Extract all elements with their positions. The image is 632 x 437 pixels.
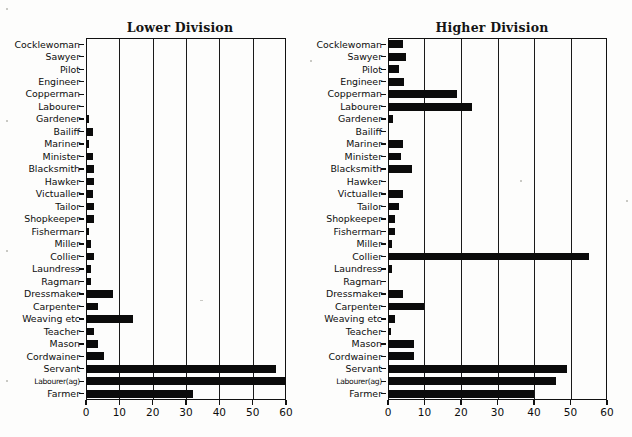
y-axis-tick-label: Cordwainer <box>2 350 84 362</box>
y-axis-tick-label: Labourer(ag) <box>318 375 386 387</box>
y-axis-tick-mark <box>381 168 386 169</box>
bar-row <box>86 200 286 212</box>
y-axis-tick-mark <box>79 94 84 95</box>
y-axis-tick-label: Blacksmith <box>318 163 386 175</box>
y-axis-tick-label: Bailiff <box>2 125 84 137</box>
bar <box>86 352 104 360</box>
bar <box>388 253 589 261</box>
bar-row <box>86 238 286 250</box>
y-axis-tick-mark <box>381 69 386 70</box>
y-axis-tick-label: Weaving etc <box>2 313 84 325</box>
y-axis-tick-mark <box>79 143 84 144</box>
bar <box>86 253 94 261</box>
bar-row <box>388 263 607 275</box>
x-axis-tick-mark <box>152 400 153 405</box>
y-axis-tick-label: Sawyer <box>318 50 386 62</box>
y-axis-tick-label: Miller <box>318 238 386 250</box>
x-axis-tick-label: 20 <box>454 406 467 418</box>
x-axis-tick-mark <box>252 400 253 405</box>
bar-row <box>86 75 286 87</box>
y-axis-tick-mark <box>79 106 84 107</box>
y-axis-tick-mark <box>381 44 386 45</box>
bar <box>86 215 94 223</box>
bar-row <box>86 350 286 362</box>
y-axis-tick-mark <box>381 218 386 219</box>
panel-title-higher: Higher Division <box>316 20 632 35</box>
bar-row <box>388 175 607 187</box>
bar-row <box>86 163 286 175</box>
bar <box>388 328 391 336</box>
bar-row <box>388 213 607 225</box>
y-axis-tick-label: Cocklewoman <box>2 38 84 50</box>
x-axis-tick-mark <box>533 400 534 405</box>
bar-rows-lower <box>86 38 286 400</box>
bar-row <box>86 388 286 400</box>
y-axis-tick-label: Cocklewoman <box>318 38 386 50</box>
y-axis-tick-mark <box>381 131 386 132</box>
y-axis-tick-mark <box>79 168 84 169</box>
y-axis-tick-label: Copperman <box>2 88 84 100</box>
bar-row <box>388 100 607 112</box>
scan-artifact <box>6 120 8 122</box>
chart-panel-higher-division: Higher Division CocklewomanSawyerPilotEn… <box>316 0 632 437</box>
y-axis-tick-label: Miller <box>2 238 84 250</box>
y-axis-tick-mark <box>381 156 386 157</box>
y-axis-tick-label: Pilot <box>318 63 386 75</box>
bar-row <box>388 113 607 125</box>
plot-area-higher <box>388 38 607 400</box>
y-axis-tick-label: Teacher <box>318 325 386 337</box>
y-axis-tick-mark <box>381 56 386 57</box>
y-axis-tick-mark <box>79 231 84 232</box>
bar <box>86 278 91 286</box>
chart-panel-lower-division: Lower Division CocklewomanSawyerPilotEng… <box>0 0 316 437</box>
y-axis-tick-label: Minister <box>2 150 84 162</box>
y-axis-tick-mark <box>381 206 386 207</box>
y-axis-tick-label: Dressmaker <box>2 288 84 300</box>
y-axis-tick-mark <box>79 356 84 357</box>
y-axis-tick-mark <box>79 156 84 157</box>
bar <box>86 340 98 348</box>
y-axis-tick-label: Labourer(ag) <box>2 375 84 387</box>
y-axis-tick-mark <box>381 343 386 344</box>
bar <box>388 228 395 236</box>
y-axis-tick-label: Ragman <box>2 275 84 287</box>
figure-root: Lower Division CocklewomanSawyerPilotEng… <box>0 0 632 437</box>
bar-row <box>388 325 607 337</box>
y-axis-tick-label: Blacksmith <box>2 163 84 175</box>
y-axis-tick-mark <box>79 306 84 307</box>
bar <box>86 203 94 211</box>
bar <box>388 65 399 73</box>
bar-rows-higher <box>388 38 607 400</box>
y-axis-tick-label: Cordwainer <box>318 350 386 362</box>
bar-row <box>86 50 286 62</box>
y-axis-tick-mark <box>381 381 386 382</box>
y-axis-tick-label: Dressmaker <box>318 288 386 300</box>
y-axis-tick-mark <box>79 243 84 244</box>
y-axis-tick-label: Gardener <box>318 113 386 125</box>
scan-artifact <box>200 300 203 301</box>
bar <box>86 390 193 398</box>
bar <box>86 190 93 198</box>
bar <box>388 153 401 161</box>
y-axis-tick-mark <box>381 193 386 194</box>
bar-row <box>388 288 607 300</box>
bar <box>86 265 91 273</box>
x-axis-tick-mark <box>219 400 220 405</box>
bar <box>86 228 89 236</box>
bar <box>86 315 133 323</box>
x-axis-tick-mark <box>285 400 286 405</box>
y-axis-tick-label: Carpenter <box>2 300 84 312</box>
bar-row <box>86 313 286 325</box>
y-axis-tick-mark <box>79 81 84 82</box>
y-axis-tick-label: Teacher <box>2 325 84 337</box>
bar-row <box>388 300 607 312</box>
y-axis-tick-mark <box>79 181 84 182</box>
x-axis-tick-mark <box>185 400 186 405</box>
bar <box>388 78 404 86</box>
y-axis-tick-label: Tailor <box>2 200 84 212</box>
bar-row <box>388 375 607 387</box>
bar <box>86 140 89 148</box>
y-axis-tick-label: Mason <box>2 338 84 350</box>
bar-row <box>86 288 286 300</box>
y-axis-tick-mark <box>381 118 386 119</box>
